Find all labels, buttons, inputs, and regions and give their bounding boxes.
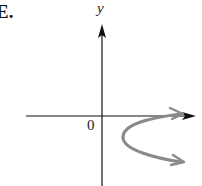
graph (0, 0, 202, 186)
